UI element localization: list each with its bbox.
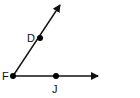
label-f: F bbox=[2, 70, 9, 82]
label-d: D bbox=[27, 32, 35, 44]
angle-diagram: F D J bbox=[0, 0, 140, 98]
point-f bbox=[10, 73, 16, 79]
point-j bbox=[53, 73, 59, 79]
point-d bbox=[37, 35, 43, 41]
label-j: J bbox=[52, 83, 58, 95]
ray-fd bbox=[13, 5, 60, 76]
